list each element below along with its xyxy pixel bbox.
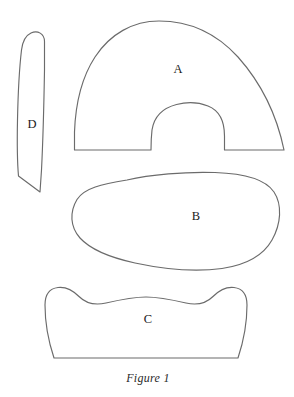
piece-label-d: D — [27, 117, 36, 131]
piece-label-a: A — [173, 62, 182, 76]
figure-caption: Figure 1 — [125, 371, 170, 385]
piece-label-b: B — [192, 209, 200, 223]
piece-outline-b — [72, 172, 280, 270]
figure-container: A B C D Figure 1 — [0, 0, 294, 397]
piece-outline-d — [17, 32, 44, 192]
pattern-pieces-diagram: A B C D Figure 1 — [0, 0, 294, 397]
piece-label-c: C — [144, 312, 152, 326]
piece-outline-a — [75, 21, 285, 150]
